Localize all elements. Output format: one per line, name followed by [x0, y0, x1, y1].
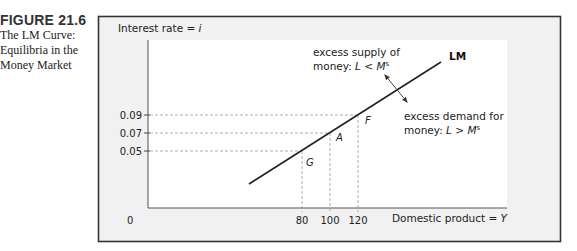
x-axis-label: Domestic product = Y: [392, 212, 509, 224]
lm-curve-diagram: Interest rate = i 0.09 0.07 0.05 0 80 10…: [0, 0, 577, 251]
svg-text:money: L < Ms: money: L < Ms: [313, 60, 389, 72]
x-tick-80: 80: [296, 215, 309, 226]
svg-text:excess demand for: excess demand for: [404, 110, 504, 122]
y-tick-0.07: 0.07: [120, 128, 142, 139]
point-g-label: G: [306, 157, 314, 168]
origin-label: 0: [127, 215, 133, 226]
y-tick-0.09: 0.09: [120, 110, 142, 121]
svg-text:money: L > Ms: money: L > Ms: [404, 124, 480, 136]
lm-curve-label: LM: [449, 50, 466, 62]
point-f-label: F: [365, 115, 371, 126]
x-tick-100: 100: [320, 215, 339, 226]
y-axis-label: Interest rate = i: [118, 22, 202, 34]
y-tick-0.05: 0.05: [120, 146, 142, 157]
svg-text:excess supply of: excess supply of: [313, 46, 400, 58]
point-a-label: A: [335, 132, 343, 143]
x-tick-120: 120: [348, 215, 367, 226]
